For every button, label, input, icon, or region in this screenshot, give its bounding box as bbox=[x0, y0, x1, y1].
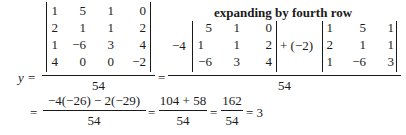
matrix-cell: 1 bbox=[352, 38, 366, 52]
denominator-2: 54 bbox=[168, 78, 401, 94]
matrix-cell: −6 bbox=[194, 55, 212, 69]
matrix-cell: 1 bbox=[325, 21, 333, 35]
matrix-cell: 2 bbox=[258, 38, 272, 52]
denominator-1: 54 bbox=[42, 78, 155, 94]
matrix-cell: 3 bbox=[380, 55, 394, 69]
matrix-cell: 5 bbox=[72, 4, 86, 18]
fraction-1-denominator: 54 bbox=[42, 113, 146, 129]
annotation-text: expanding by fourth row bbox=[214, 5, 352, 21]
fraction-1-numerator: −4(−26) − 2(−29) bbox=[42, 93, 146, 109]
matrix-cell: 2 bbox=[325, 38, 333, 52]
matrix-cell: −6 bbox=[68, 38, 86, 52]
fraction-line-3 bbox=[43, 110, 146, 111]
matrix-cell: 2 bbox=[50, 21, 58, 35]
matrix-cell: 2 bbox=[130, 21, 146, 35]
equals-sign: = bbox=[210, 105, 217, 121]
equals-sign: = bbox=[148, 105, 155, 121]
fraction-line-4 bbox=[159, 110, 207, 111]
minor1-left-bar bbox=[192, 21, 193, 72]
final-result: = 3 bbox=[246, 105, 263, 121]
matrix-cell: 0 bbox=[258, 21, 272, 35]
matrix-cell: −6 bbox=[344, 55, 366, 69]
fraction-2-denominator: 54 bbox=[158, 113, 208, 129]
matrix-cell: 1 bbox=[380, 21, 394, 35]
matrix-cell: 0 bbox=[130, 4, 146, 18]
minor2-right-bar bbox=[396, 21, 397, 72]
equals-sign: = bbox=[28, 70, 35, 86]
matrix-cell: 1 bbox=[72, 21, 86, 35]
fraction-line-2 bbox=[168, 75, 401, 76]
matrix-cell: 0 bbox=[72, 55, 86, 69]
matrix-cell: 1 bbox=[194, 38, 204, 52]
minor1-right-bar bbox=[276, 21, 277, 72]
coefficient-1: −4 bbox=[172, 38, 186, 54]
matrix-cell: 1 bbox=[325, 55, 333, 69]
matrix-cell: 4 bbox=[258, 55, 272, 69]
fraction-2-numerator: 104 + 58 bbox=[158, 93, 208, 109]
matrix-cell: 3 bbox=[100, 38, 114, 52]
fraction-line-1 bbox=[42, 75, 155, 76]
equals-sign: = bbox=[158, 70, 165, 86]
matrix-cell: 5 bbox=[194, 21, 212, 35]
det-right-bar bbox=[150, 2, 151, 72]
matrix-cell: −2 bbox=[126, 55, 146, 69]
equals-sign: = bbox=[30, 105, 37, 121]
matrix-cell: 1 bbox=[380, 38, 394, 52]
matrix-cell: 1 bbox=[226, 38, 240, 52]
fraction-line-5 bbox=[221, 110, 243, 111]
fraction-3-numerator: 162 bbox=[220, 93, 244, 109]
matrix-cell: 0 bbox=[100, 55, 114, 69]
matrix-cell: 1 bbox=[226, 21, 240, 35]
matrix-cell: 1 bbox=[100, 21, 114, 35]
matrix-cell: 3 bbox=[226, 55, 240, 69]
matrix-cell: 1 bbox=[50, 38, 58, 52]
det-left-bar bbox=[46, 2, 47, 72]
matrix-cell: 1 bbox=[50, 4, 58, 18]
matrix-cell: 4 bbox=[50, 55, 58, 69]
matrix-cell: 1 bbox=[100, 4, 114, 18]
variable-y: y bbox=[18, 70, 24, 86]
minor2-left-bar bbox=[322, 21, 323, 72]
coefficient-2: + (−2) bbox=[280, 38, 313, 54]
matrix-cell: 4 bbox=[130, 38, 146, 52]
matrix-cell: 5 bbox=[352, 21, 366, 35]
fraction-3-denominator: 54 bbox=[220, 113, 244, 129]
